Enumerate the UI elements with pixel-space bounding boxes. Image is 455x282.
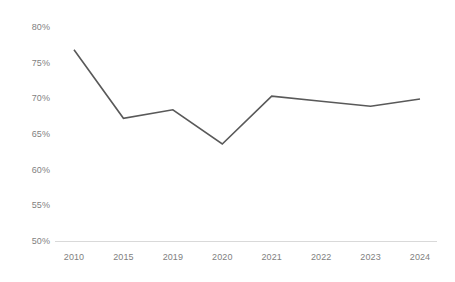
x-tick-label: 2022 bbox=[311, 252, 331, 263]
x-axis-tick-labels: 20102015201920202021202220232024 bbox=[0, 252, 455, 268]
line-chart: 80%75%70%65%60%55%50% 201020152019202020… bbox=[0, 0, 455, 282]
x-tick-label: 2020 bbox=[212, 252, 232, 263]
x-tick-label: 2021 bbox=[261, 252, 281, 263]
x-tick-label: 2015 bbox=[113, 252, 133, 263]
x-tick-label: 2023 bbox=[360, 252, 380, 263]
data-series-line bbox=[74, 50, 420, 144]
plot-svg bbox=[0, 0, 455, 282]
x-tick-label: 2019 bbox=[163, 252, 183, 263]
x-tick-label: 2024 bbox=[410, 252, 430, 263]
plot-area bbox=[0, 0, 455, 282]
x-tick-label: 2010 bbox=[64, 252, 84, 263]
